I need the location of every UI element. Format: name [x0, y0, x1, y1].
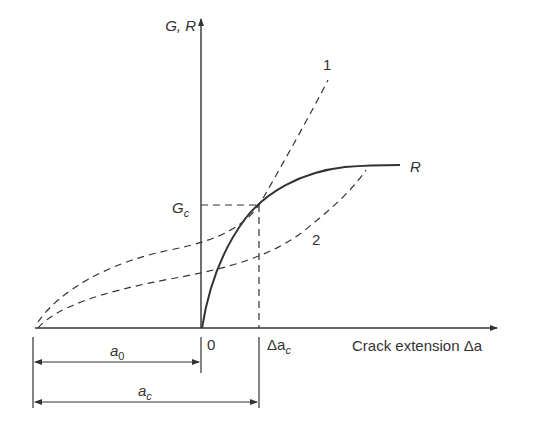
- curve-2-label: 2: [312, 231, 320, 248]
- r-curve: [202, 165, 400, 328]
- ac-label: ac: [138, 382, 152, 402]
- driving-force-curve-2: [38, 170, 366, 328]
- r-curve-diagram: G, R Crack extension Δa 0 Gc Δac R 1 2 a…: [0, 0, 534, 434]
- x-axis-label: Crack extension Δa: [352, 337, 483, 354]
- origin-label: 0: [207, 336, 215, 353]
- gc-label: Gc: [172, 199, 190, 219]
- curve-1-label: 1: [323, 56, 331, 73]
- r-curve-label: R: [410, 158, 421, 175]
- a0-label: a0: [110, 342, 124, 362]
- critical-extension-label: Δac: [267, 336, 291, 356]
- y-axis-label: G, R: [165, 17, 196, 34]
